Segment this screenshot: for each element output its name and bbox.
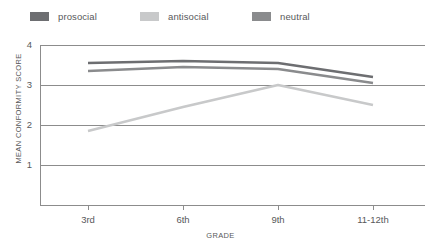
line-chart: prosocial antisocial neutral MEAN CONFOR… <box>0 0 441 249</box>
x-tick-label: 9th <box>243 214 313 225</box>
series-lines <box>88 61 373 131</box>
y-tick-label: 2 <box>14 119 32 130</box>
x-tick-label: 6th <box>148 214 218 225</box>
x-tick-label: 11-12th <box>338 214 408 225</box>
plot-canvas <box>0 0 441 249</box>
y-tick-label: 3 <box>14 79 32 90</box>
x-axis-title: GRADE <box>0 231 441 240</box>
x-axis-ticks <box>88 205 373 210</box>
y-tick-label: 4 <box>14 39 32 50</box>
x-tick-label: 3rd <box>53 214 123 225</box>
y-tick-label: 1 <box>14 159 32 170</box>
plot-area: MEAN CONFORMITY SCORE GRADE 1234 3rd6th9… <box>0 0 441 249</box>
y-axis-title: MEAN CONFORMITY SCORE <box>14 44 23 174</box>
